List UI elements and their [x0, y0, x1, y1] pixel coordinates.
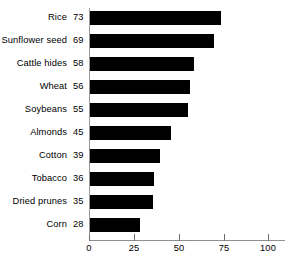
category-label: Sunflower seed [2, 36, 67, 45]
row-label-group: Tobacco 36 [0, 172, 86, 186]
row-label-group: Corn 28 [0, 218, 86, 232]
bar [90, 57, 194, 71]
bar [90, 80, 190, 94]
bar [90, 126, 171, 140]
row-label-group: Sunflower seed 69 [0, 34, 86, 48]
value-label: 55 [73, 105, 86, 114]
row-label-group: Wheat 56 [0, 80, 86, 94]
x-tick-label: 25 [129, 243, 140, 253]
category-label: Cattle hides [17, 59, 67, 68]
bar [90, 149, 160, 163]
row-label-group: Soybeans 55 [0, 103, 86, 117]
bar [90, 218, 140, 232]
x-tick-label: 0 [86, 243, 91, 253]
value-label: 39 [73, 151, 86, 160]
bar-track [90, 149, 160, 163]
table-row: Dried prunes 35 [0, 195, 293, 218]
row-label-group: Rice 73 [0, 11, 86, 25]
table-row: Cotton 39 [0, 149, 293, 172]
value-label: 58 [73, 59, 86, 68]
horizontal-bar-chart: Rice 73 Sunflower seed 69 Cattle hides 5… [0, 0, 293, 264]
value-label: 36 [73, 174, 86, 183]
table-row: Cattle hides 58 [0, 57, 293, 80]
value-label: 56 [73, 82, 86, 91]
bar-track [90, 57, 194, 71]
x-tick-label: 100 [260, 243, 276, 253]
row-label-group: Almonds 45 [0, 126, 86, 140]
bar [90, 34, 214, 48]
table-row: Corn 28 [0, 218, 293, 241]
bar-track [90, 195, 153, 209]
x-tick-label: 50 [174, 243, 185, 253]
bar-track [90, 172, 154, 186]
value-label: 69 [73, 36, 86, 45]
bar-track [90, 218, 140, 232]
table-row: Wheat 56 [0, 80, 293, 103]
bar [90, 103, 188, 117]
x-tick-label: 75 [219, 243, 230, 253]
value-label: 35 [73, 197, 86, 206]
table-row: Almonds 45 [0, 126, 293, 149]
category-label: Rice [48, 13, 67, 22]
row-label-group: Cattle hides 58 [0, 57, 86, 71]
category-label: Wheat [40, 82, 67, 91]
category-label: Almonds [30, 128, 67, 137]
bar [90, 172, 154, 186]
value-label: 28 [73, 220, 86, 229]
bar-track [90, 11, 221, 25]
bar-track [90, 126, 171, 140]
table-row: Rice 73 [0, 11, 293, 34]
bar-rows: Rice 73 Sunflower seed 69 Cattle hides 5… [0, 11, 293, 241]
row-label-group: Dried prunes 35 [0, 195, 86, 209]
value-label: 73 [73, 13, 86, 22]
bar [90, 11, 221, 25]
bar-track [90, 103, 188, 117]
bar [90, 195, 153, 209]
category-label: Soybeans [25, 105, 67, 114]
bar-track [90, 80, 190, 94]
category-label: Corn [46, 220, 67, 229]
bar-track [90, 34, 214, 48]
table-row: Soybeans 55 [0, 103, 293, 126]
table-row: Tobacco 36 [0, 172, 293, 195]
category-label: Dried prunes [13, 197, 67, 206]
row-label-group: Cotton 39 [0, 149, 86, 163]
table-row: Sunflower seed 69 [0, 34, 293, 57]
value-label: 45 [73, 128, 86, 137]
category-label: Cotton [39, 151, 67, 160]
category-label: Tobacco [32, 174, 67, 183]
